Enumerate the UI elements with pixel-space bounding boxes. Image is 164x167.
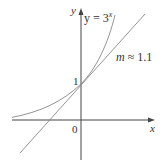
curve-label: y = 3x [84,11,112,24]
tangent-line [20,14,145,153]
slope-label: m ≈ 1.1 [116,51,152,63]
slope-label-value: ≈ 1.1 [125,50,153,64]
exponential-curve [12,15,115,117]
y-axis-arrow-icon [79,8,84,15]
slope-label-m: m [116,50,125,64]
y-tick-one: 1 [73,76,79,87]
x-axis-label: x [150,123,155,134]
curve-label-base: y = 3 [84,11,109,25]
origin-label: 0 [72,124,78,135]
plot-area [0,0,164,167]
curve-label-exponent: x [109,10,113,19]
y-axis-label: y [71,5,76,16]
